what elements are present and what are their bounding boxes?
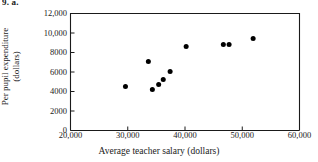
y-axis-tick-label: 10,000 xyxy=(44,29,67,38)
data-point xyxy=(156,82,161,87)
plot-frame xyxy=(71,14,300,131)
x-axis-tick-label: 20,000 xyxy=(59,131,82,140)
data-point xyxy=(184,44,189,49)
scatter-plot-figure: 9. a. Per pupil expenditure (dollars) Av… xyxy=(0,0,318,162)
axis-ticks-group xyxy=(71,14,243,131)
data-point xyxy=(221,42,226,47)
y-axis-title-line-1: Per pupil expenditure xyxy=(0,5,10,129)
data-point xyxy=(168,69,173,74)
data-point xyxy=(161,77,166,82)
data-point xyxy=(227,42,232,47)
x-axis-tick-label: 50,000 xyxy=(231,131,254,140)
y-axis-tick-label: 6000 xyxy=(50,68,67,77)
data-points-group xyxy=(123,36,256,92)
data-point xyxy=(146,59,151,64)
data-point xyxy=(150,87,155,92)
y-axis-tick-label: 4000 xyxy=(50,87,67,96)
y-axis-tick-label: 12,000 xyxy=(44,9,67,18)
x-axis-tick-label: 40,000 xyxy=(173,131,196,140)
x-axis-tick-labels: 20,00030,00040,00050,00060,000 xyxy=(0,131,318,145)
y-axis-tick-label: 8000 xyxy=(50,48,67,57)
data-point xyxy=(123,84,128,89)
y-axis-title-line-2: (dollars) xyxy=(10,5,21,129)
axes-group xyxy=(71,14,300,131)
x-axis-tick-label: 30,000 xyxy=(116,131,139,140)
y-axis-tick-label: 2000 xyxy=(50,107,67,116)
y-axis-title: Per pupil expenditure (dollars) xyxy=(0,5,21,129)
x-axis-tick-label: 60,000 xyxy=(288,131,311,140)
data-point xyxy=(251,36,256,41)
